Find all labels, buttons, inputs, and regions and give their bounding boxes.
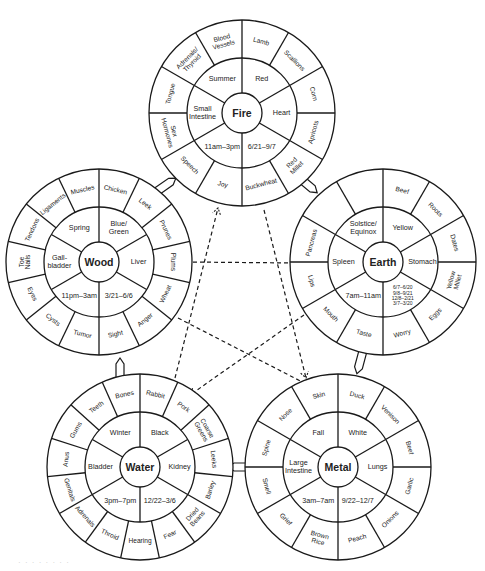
wheel-earth: EarthYellowStomach6/7–6/209/8–9/2112/8–2… [290, 169, 476, 355]
inner-segment-label: 3pm–7pm [104, 496, 136, 505]
inner-segment-label: 3am–7am [302, 496, 334, 505]
wheel-wood: WoodBlue/GreenLiver3/21–6/611pm–3amGall-… [6, 169, 192, 355]
inner-segment-label: 9/22–12/7 [342, 496, 374, 505]
inner-segment-label: Kidney [169, 462, 191, 471]
element-label: Water [126, 461, 155, 473]
element-label: Fire [232, 107, 251, 119]
inner-segment-label: 12/22–3/6 [144, 496, 176, 505]
inner-segment-label: Winter [110, 428, 131, 437]
inner-segment-label: 6/7–6/209/8–9/2112/8–2/213/7–3/20 [392, 285, 414, 307]
inner-segment-label: Heart [273, 108, 291, 117]
controlling-cycle-lines [175, 208, 312, 395]
inner-segment-label: Black [151, 428, 169, 437]
inner-segment-label: 11am–3pm [205, 142, 240, 151]
five-elements-diagram: FireRedHeart6/21–9/711am–3pmSmallIntesti… [0, 0, 485, 571]
inner-segment-label: Blue/Green [109, 219, 129, 236]
inner-segment-label: Fall [312, 428, 324, 437]
inner-segment-label: Lungs [368, 462, 388, 471]
figure-caption: · · · · · · · · [18, 558, 70, 567]
wheel-metal: MetalWhiteLungs9/22–12/73am–7amLargeInte… [245, 374, 431, 560]
inner-segment-label: Yellow [392, 223, 413, 232]
inner-segment-label: Spring [69, 223, 90, 232]
inner-segment-label: Liver [131, 257, 147, 266]
inner-segment-label: Solstice/Equinox [350, 219, 377, 236]
wheel-fire: FireRedHeart6/21–9/711am–3pmSmallIntesti… [149, 20, 335, 206]
inner-segment-label: Spleen [332, 257, 354, 266]
element-label: Earth [370, 256, 397, 268]
inner-segment-label: Stomach [408, 257, 436, 266]
inner-segment-label: Bladder [88, 462, 113, 471]
inner-segment-label: 6/21–9/7 [248, 142, 276, 151]
inner-segment-label: 7am–11am [346, 291, 381, 300]
inner-segment-label: Summer [209, 74, 237, 83]
inner-segment-label: 3/21–6/6 [105, 291, 133, 300]
element-label: Metal [325, 461, 352, 473]
element-label: Wood [85, 256, 114, 268]
inner-segment-label: Red [255, 74, 268, 83]
outer-segment-label: Plums [170, 253, 177, 272]
outer-segment-label: Hearing [128, 537, 151, 545]
wheel-water: WaterBlackKidney12/22–3/63pm–7pmBladderW… [47, 374, 233, 560]
inner-segment-label: 11pm–3am [62, 291, 97, 300]
inner-segment-label: White [349, 428, 367, 437]
